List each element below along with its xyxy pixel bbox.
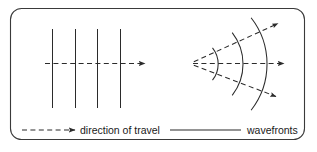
figure-border (11, 9, 305, 140)
legend-label-wavefronts: wavefronts (247, 125, 298, 136)
legend-label-direction-of-travel: direction of travel (80, 125, 160, 136)
wavefront-diagram-figure: direction of travel wavefronts (0, 0, 317, 152)
